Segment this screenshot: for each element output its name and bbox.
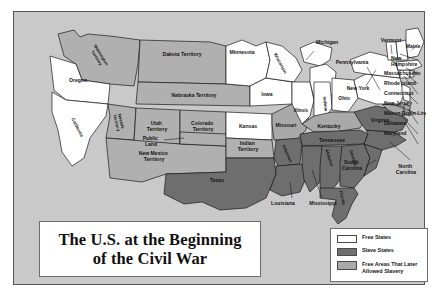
label-kansas: Kansas xyxy=(239,123,257,129)
legend-label-later-line2: Allowed Slavery xyxy=(362,268,403,274)
label-massachusetts: Massachusetts xyxy=(384,70,421,76)
map-legend: Free States Slave States Free Areas That… xyxy=(330,228,428,282)
leader-line-north-carolina xyxy=(390,142,410,160)
map-title-box: The U.S. at the Beginning of the Civil W… xyxy=(39,221,261,277)
label-new-york: New York xyxy=(347,85,370,91)
legend-label-later-allowed-slavery: Free Areas That Later Allowed Slavery xyxy=(362,261,417,275)
label-dakota-territory: Dakota Territory xyxy=(163,51,202,57)
label-indian-territory: Indian Territory xyxy=(238,140,259,152)
label-mississippi: Mississippi xyxy=(309,200,337,206)
map-title: The U.S. at the Beginning of the Civil W… xyxy=(58,230,241,268)
legend-item-later-allowed-slavery: Free Areas That Later Allowed Slavery xyxy=(337,261,422,275)
map-title-line1: The U.S. at the Beginning xyxy=(58,230,241,249)
map-panel: .st{stroke:#1a1a1a;stroke-width:0.7;stro… xyxy=(13,11,425,285)
label-rhode-island: Rhode Island xyxy=(384,80,416,86)
label-colorado-territory: Colorado Territory xyxy=(191,120,215,132)
label-oregon: Oregon xyxy=(69,77,87,83)
label-mason-dixon-line: Mason-Dixon Line xyxy=(384,110,426,116)
label-new-jersey: New Jersey xyxy=(384,100,412,106)
region-public-land[interactable] xyxy=(180,132,226,146)
legend-item-free-states: Free States xyxy=(337,234,422,243)
legend-label-slave-states: Slave States xyxy=(362,247,394,254)
label-ohio: Ohio xyxy=(338,95,350,101)
label-missouri: Missouri xyxy=(276,122,298,128)
legend-label-later-line1: Free Areas That Later xyxy=(362,261,417,267)
region-michigan[interactable] xyxy=(300,42,332,66)
region-dakota-territory[interactable] xyxy=(138,40,226,84)
label-iowa: Iowa xyxy=(261,91,272,97)
label-louisiana: Louisiana xyxy=(271,200,295,206)
legend-item-slave-states: Slave States xyxy=(337,247,422,256)
label-illinois: Illinois xyxy=(294,108,309,113)
legend-swatch-later-allowed-slavery xyxy=(337,261,357,270)
label-minnesota: Minnesota xyxy=(229,49,254,55)
label-vermont: Vermont xyxy=(381,37,402,43)
legend-swatch-free-states xyxy=(337,235,357,244)
label-public-land: Public Land xyxy=(143,135,160,147)
label-south-carolina: South Carolina xyxy=(342,159,363,171)
label-tennessee: Tennessee xyxy=(319,137,345,143)
region-wisconsin[interactable] xyxy=(266,42,302,82)
label-maine: Maine xyxy=(406,43,421,49)
legend-label-free-states: Free States xyxy=(362,234,391,241)
region-mississippi[interactable] xyxy=(302,146,322,192)
label-kentucky: Kentucky xyxy=(318,123,341,129)
label-delaware: Delaware xyxy=(384,120,407,126)
label-nebraska-territory: Nebraska Territory xyxy=(172,92,217,98)
map-title-line2: of the Civil War xyxy=(93,249,208,268)
label-michigan: Michigan xyxy=(316,39,338,45)
civil-war-map-figure: .st{stroke:#1a1a1a;stroke-width:0.7;stro… xyxy=(0,0,438,296)
legend-swatch-slave-states xyxy=(337,248,357,257)
label-north-carolina: North Carolina xyxy=(396,163,417,175)
label-maryland: Maryland xyxy=(384,130,406,136)
label-pennsylvania: Pennsylvania xyxy=(336,59,369,65)
label-connecticut: Connecticut xyxy=(384,90,414,96)
label-texas: Texas xyxy=(210,177,224,183)
